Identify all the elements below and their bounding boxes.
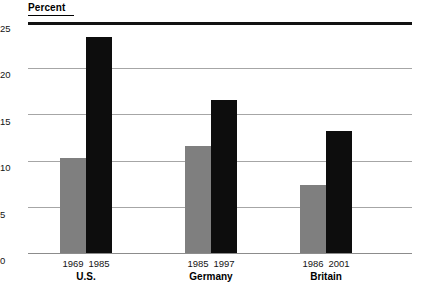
bar-germany-1997 (211, 100, 237, 253)
plot-area (28, 22, 412, 254)
bar-britain-2001 (326, 131, 352, 253)
bar-chart: Percent 0510152025 19691985U.S.19851997G… (0, 0, 422, 293)
bar-us-1985 (86, 37, 112, 253)
y-tick-label-10: 10 (0, 163, 24, 173)
y-tick-label-20: 20 (0, 70, 24, 80)
y-tick-label-5: 5 (0, 210, 24, 220)
baseline-axis (28, 253, 412, 254)
y-axis-title-underline (28, 15, 74, 16)
x-group-label-us: U.S. (40, 271, 132, 283)
top-axis-rule (28, 22, 412, 25)
y-tick-label-15: 15 (0, 117, 24, 127)
x-group-label-britain: Britain (280, 271, 372, 283)
bar-us-1969 (60, 158, 86, 254)
x-group-label-germany: Germany (165, 271, 257, 283)
x-year-label-1985-0: 1985 (80, 258, 118, 269)
y-tick-label-0: 0 (0, 256, 24, 266)
x-year-label-2001-2: 2001 (320, 258, 358, 269)
x-year-label-1997-1: 1997 (205, 258, 243, 269)
bar-germany-1985 (185, 146, 211, 253)
y-axis-title: Percent (28, 2, 65, 14)
bar-britain-1986 (300, 185, 326, 253)
y-tick-label-25: 25 (0, 24, 24, 34)
